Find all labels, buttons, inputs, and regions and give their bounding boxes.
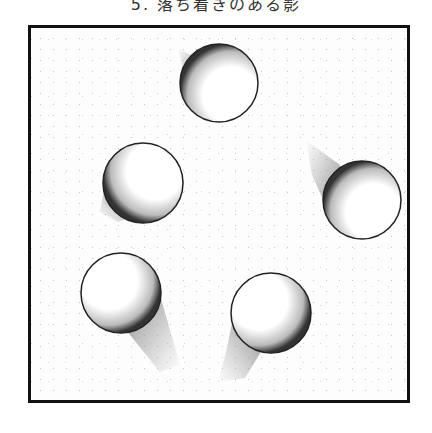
sphere-bottom-left — [81, 253, 180, 372]
sphere-body — [103, 143, 183, 223]
spheres-illustration — [0, 0, 432, 433]
sphere-body — [180, 44, 258, 122]
sphere-left — [100, 143, 183, 223]
sphere-right — [306, 140, 401, 239]
sphere-bottom-right — [218, 273, 311, 382]
sphere-body — [323, 161, 401, 239]
sphere-body — [231, 273, 311, 353]
sphere-top — [178, 44, 258, 122]
sphere-body — [81, 253, 161, 333]
